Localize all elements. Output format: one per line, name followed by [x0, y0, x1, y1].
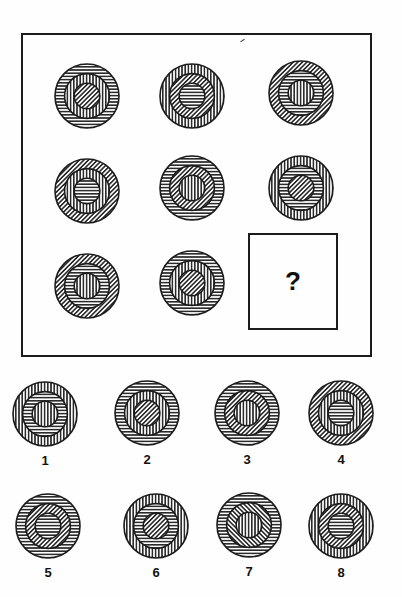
answer-option-4[interactable]	[307, 379, 375, 447]
inner-disc	[328, 513, 354, 539]
answer-option-label: 6	[146, 565, 166, 580]
matrix-cell-r2c3	[267, 154, 335, 222]
matrix-cell-r2c1	[53, 157, 121, 225]
missing-cell-box: ?	[248, 233, 338, 330]
question-mark: ?	[285, 266, 301, 297]
matrix-cell-r1c2	[158, 62, 226, 130]
matrix-cell-r1c3	[267, 59, 335, 127]
answer-option-label: 7	[239, 564, 259, 579]
answer-option-label: 3	[237, 452, 257, 467]
inner-disc	[179, 175, 205, 201]
matrix-cell-r1c1	[53, 62, 121, 130]
matrix-cell-r3c1	[53, 252, 121, 320]
inner-disc	[179, 83, 205, 109]
matrix-cell-r3c2	[158, 249, 226, 317]
inner-disc	[74, 273, 100, 299]
answer-option-6[interactable]	[122, 492, 190, 560]
answer-option-3[interactable]	[213, 379, 281, 447]
inner-disc	[134, 400, 160, 426]
inner-disc	[35, 513, 61, 539]
inner-disc	[236, 512, 262, 538]
inner-disc	[143, 513, 169, 539]
answer-option-5[interactable]	[14, 492, 82, 560]
inner-disc	[288, 175, 314, 201]
inner-disc	[179, 270, 205, 296]
answer-option-label: 4	[331, 452, 351, 467]
inner-disc	[328, 400, 354, 426]
answer-option-label: 5	[38, 565, 58, 580]
inner-disc	[32, 401, 58, 427]
answer-option-label: 8	[331, 565, 351, 580]
inner-disc	[234, 400, 260, 426]
inner-disc	[74, 83, 100, 109]
inner-disc	[74, 178, 100, 204]
answer-option-label: 2	[137, 452, 157, 467]
answer-option-2[interactable]	[113, 379, 181, 447]
inner-disc	[288, 80, 314, 106]
answer-option-label: 1	[35, 453, 55, 468]
matrix-cell-r2c2	[158, 154, 226, 222]
answer-option-7[interactable]	[215, 491, 283, 559]
answer-option-8[interactable]	[307, 492, 375, 560]
answer-option-1[interactable]	[11, 380, 79, 448]
